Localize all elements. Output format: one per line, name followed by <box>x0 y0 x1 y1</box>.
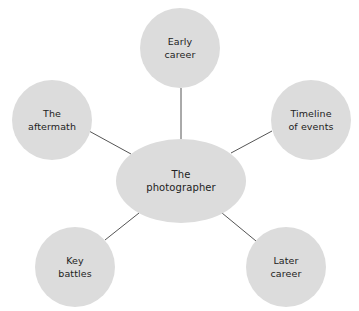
node-label: Early career <box>165 35 196 61</box>
link-key-battles <box>105 213 139 240</box>
node-label: Key battles <box>58 254 91 280</box>
link-the-aftermath <box>89 131 131 154</box>
link-later-career <box>222 213 256 241</box>
node-the-aftermath: The aftermath <box>12 80 92 160</box>
node-label: Timeline of events <box>288 107 333 133</box>
node-label: Later career <box>271 254 302 280</box>
mind-map-diagram: The photographer Early career The afterm… <box>0 0 359 311</box>
node-key-battles: Key battles <box>35 227 115 307</box>
central-node-label: The photographer <box>146 168 216 194</box>
node-later-career: Later career <box>246 227 326 307</box>
node-timeline-of-events: Timeline of events <box>271 80 351 160</box>
node-label: The aftermath <box>28 107 76 133</box>
central-node-the-photographer: The photographer <box>116 139 246 223</box>
link-timeline-of-events <box>231 131 272 153</box>
node-early-career: Early career <box>140 8 220 88</box>
